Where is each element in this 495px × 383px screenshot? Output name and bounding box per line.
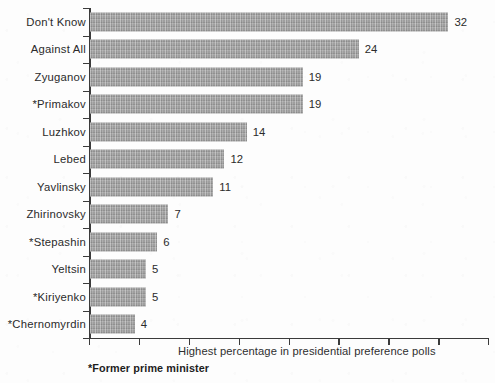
category-label: Zyuganov [35, 71, 86, 83]
bar-row: *Stepashin6 [0, 228, 495, 256]
bar [90, 40, 359, 59]
bar-value-label: 7 [174, 208, 180, 220]
bar [90, 95, 303, 114]
category-label: *Chernomyrdin [8, 318, 86, 330]
bar-value-label: 19 [309, 98, 322, 110]
bar-value-label: 32 [454, 16, 467, 28]
category-label: *Primakov [32, 98, 86, 110]
bar-value-label: 6 [163, 236, 169, 248]
bar [90, 315, 135, 334]
category-label: Lebed [53, 153, 86, 165]
category-label: Against All [31, 43, 86, 55]
x-axis-tick [388, 338, 389, 345]
x-axis-tick [289, 338, 290, 345]
bar-value-label: 19 [309, 71, 322, 83]
bar [90, 232, 157, 251]
category-label: Zhirinovsky [26, 208, 86, 220]
bar [90, 122, 247, 141]
chart-footnote: *Former prime minister [88, 362, 209, 374]
chart-page: Don't Know32Against All24Zyuganov19*Prim… [0, 0, 495, 383]
x-axis-tick [189, 338, 190, 345]
bar-row: *Primakov19 [0, 91, 495, 119]
x-axis-tick [139, 338, 140, 345]
bar-value-label: 5 [152, 291, 158, 303]
bar [90, 205, 168, 224]
bar-row: Zyuganov19 [0, 63, 495, 91]
bar-value-label: 11 [219, 181, 231, 193]
x-axis-tick [239, 338, 240, 345]
x-axis-tick [438, 338, 439, 345]
category-label: Yeltsin [52, 263, 86, 275]
bar-row: Yeltsin5 [0, 256, 495, 284]
category-label: *Stepashin [29, 236, 86, 248]
bar [90, 177, 213, 196]
bar-row: Lebed12 [0, 146, 495, 174]
bar-row: Yavlinsky11 [0, 173, 495, 201]
bar [90, 287, 146, 306]
bar-row: Luzhkov14 [0, 118, 495, 146]
bar-value-label: 14 [253, 126, 266, 138]
bar-row: *Chernomyrdin4 [0, 311, 495, 339]
bar-chart-plot-area: Don't Know32Against All24Zyuganov19*Prim… [0, 0, 495, 383]
x-axis-label: Highest percentage in presidential prefe… [178, 345, 436, 357]
bar-value-label: 4 [141, 318, 147, 330]
bar-value-label: 24 [365, 43, 378, 55]
bar-row: *Kiriyenko5 [0, 283, 495, 311]
bar-value-label: 5 [152, 263, 158, 275]
bar-value-label: 12 [230, 153, 243, 165]
bar [90, 12, 448, 31]
x-axis-tick [89, 338, 90, 345]
bar [90, 260, 146, 279]
bar [90, 67, 303, 86]
category-label: Yavlinsky [37, 181, 86, 193]
x-axis-tick [488, 338, 489, 345]
x-axis-tick [338, 338, 339, 345]
category-label: Don't Know [26, 16, 86, 28]
bar-row: Zhirinovsky7 [0, 201, 495, 229]
category-label: Luzhkov [42, 126, 86, 138]
bar-row: Against All24 [0, 36, 495, 64]
bar-row: Don't Know32 [0, 8, 495, 36]
bar [90, 150, 224, 169]
category-label: *Kiriyenko [33, 291, 86, 303]
